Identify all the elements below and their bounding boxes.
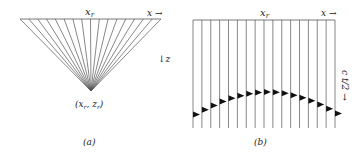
ray-line [20,19,91,91]
wavelet-marker [202,107,209,113]
wavelet-marker [291,92,298,98]
wavelet-marker [308,98,315,104]
ray-line [55,19,91,91]
ray-line [91,19,126,91]
ray-line [91,19,108,91]
wavelet-marker [326,106,333,112]
wavelet-marker [282,90,289,96]
ray-line [64,19,91,91]
ray-line [91,19,161,91]
panel-a: xr x → ↓z (xr, zr) (a) [20,6,171,147]
ray-fan [20,19,161,91]
wavelet-marker [317,102,324,108]
wavelet-marker [246,91,253,97]
wavelet-marker [264,89,271,95]
wavelet-marker [229,95,236,101]
wavelet-marker [300,95,307,101]
z-axis-label: ↓z [158,54,171,64]
time-axis-label: c t/2 → [340,70,350,101]
xr-label-a: xr [85,6,95,19]
diffraction-wavelets [193,89,342,118]
wavelet-marker [211,102,218,108]
wavelet-marker [193,112,200,118]
wavelet-marker [237,93,244,99]
x-axis-label-b: x → [321,8,337,18]
wavelet-marker [335,110,342,116]
x-axis-label-a: x → [147,8,163,18]
panel-b: xr x → c t/2 → (b) [193,7,350,147]
wavelet-marker [255,89,262,95]
trace-lines [193,20,335,128]
wavelet-marker [220,99,227,105]
ray-line [46,19,91,91]
caption-a: (a) [83,137,96,147]
wavelet-marker [273,89,280,95]
ray-line [91,19,92,91]
migration-diagram: xr x → ↓z (xr, zr) (a) xr x → c t/2 → (b… [0,0,360,155]
apex-label: (xr, zr) [75,99,104,110]
xr-label-b: xr [260,7,270,20]
ray-line [91,19,143,91]
ray-line [91,19,152,91]
caption-b: (b) [254,137,267,147]
